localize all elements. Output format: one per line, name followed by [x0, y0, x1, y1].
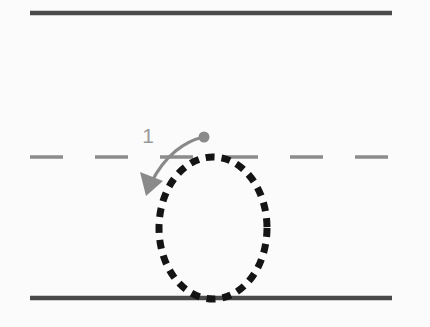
maneuver-label-1: 1 [142, 124, 154, 147]
figure-background [0, 0, 430, 327]
maneuver-arrow-start-dot [199, 132, 210, 143]
figure-root: 1 [0, 0, 430, 327]
road-maneuver-diagram: 1 [0, 0, 430, 327]
